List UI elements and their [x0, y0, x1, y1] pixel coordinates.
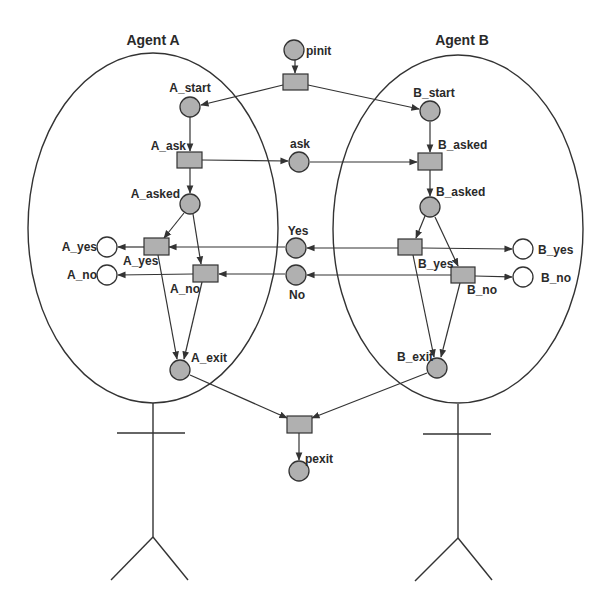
arc-aasked-ano [193, 214, 201, 264]
arc-ano-anop [118, 274, 193, 275]
transition-b-yes[interactable] [398, 239, 422, 255]
place-b-yes[interactable] [513, 239, 533, 259]
transition-init[interactable] [283, 74, 308, 90]
arc-tinit-astart [201, 85, 283, 105]
label-no: No [289, 288, 305, 302]
label-b-exit: B_exit [397, 350, 433, 364]
arc-byes-byesp [422, 248, 512, 249]
agent-b-ellipse [333, 55, 583, 403]
place-a-no[interactable] [97, 265, 117, 285]
transition-a-yes[interactable] [144, 238, 169, 255]
agent-a-title: Agent A [126, 32, 179, 48]
agent-b: Agent B [333, 32, 583, 581]
label-b-yes-place: B_yes [538, 243, 574, 257]
label-b-no-transition: B_no [467, 283, 497, 297]
arc-bno-bexit [441, 283, 460, 357]
place-yes[interactable] [286, 238, 306, 258]
agent-a-right-leg [153, 537, 188, 580]
agent-a-left-leg [111, 537, 153, 580]
petri-net-diagram: Agent A Agent B [0, 0, 604, 592]
arc-ayes-aexit [158, 255, 177, 359]
transition-exit[interactable] [287, 416, 312, 433]
label-a-ask: A_ask [151, 139, 187, 153]
label-b-yes-transition: B_yes [418, 257, 454, 271]
place-a-asked[interactable] [180, 194, 200, 214]
arc-aask-ask [202, 160, 288, 161]
labels: pinit A_start A_ask A_asked A_yes A_yes … [62, 44, 574, 466]
label-b-asked-place: B_asked [436, 185, 485, 199]
arc-bexit-texit [312, 373, 427, 418]
transition-b-no[interactable] [451, 267, 475, 283]
transition-a-ask[interactable] [177, 152, 202, 168]
place-b-asked[interactable] [420, 197, 440, 217]
label-b-start: B_start [413, 86, 454, 100]
label-a-exit: A_exit [191, 351, 227, 365]
transition-a-no[interactable] [193, 265, 218, 282]
label-a-start: A_start [169, 81, 210, 95]
place-a-start[interactable] [180, 97, 200, 117]
label-pexit: pexit [305, 452, 333, 466]
place-b-start[interactable] [420, 101, 440, 121]
transition-b-asked[interactable] [418, 153, 442, 170]
agent-b-left-leg [415, 538, 458, 581]
label-ask: ask [290, 137, 310, 151]
arc-tinit-bstart [308, 85, 419, 109]
label-b-no-place: B_no [541, 271, 571, 285]
arc-baskedp-byes [416, 216, 425, 238]
label-b-asked-transition: B_asked [438, 138, 487, 152]
transitions [144, 74, 475, 433]
label-a-yes-place: A_yes [62, 240, 98, 254]
place-a-yes[interactable] [97, 237, 117, 257]
place-a-exit[interactable] [170, 360, 190, 380]
label-a-asked: A_asked [131, 187, 180, 201]
label-a-no-place: A_no [67, 268, 97, 282]
agent-a: Agent A [28, 32, 278, 580]
arc-aexit-texit [190, 375, 287, 418]
label-pinit: pinit [306, 44, 331, 58]
place-pinit[interactable] [284, 40, 304, 60]
place-ask[interactable] [289, 152, 309, 172]
label-yes: Yes [288, 224, 309, 238]
label-a-no-transition: A_no [170, 282, 200, 296]
agent-b-title: Agent B [435, 32, 489, 48]
label-a-yes-transition: A_yes [123, 254, 159, 268]
place-b-no[interactable] [513, 267, 533, 287]
agent-b-right-leg [458, 538, 492, 580]
agent-a-ellipse [28, 53, 278, 403]
places [97, 40, 533, 481]
arc-aasked-ayes [164, 213, 184, 238]
arc-bno-bnop [475, 276, 512, 277]
place-no[interactable] [286, 265, 306, 285]
